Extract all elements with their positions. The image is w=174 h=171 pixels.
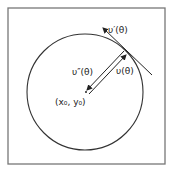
normal-vector-label: υ″(θ) — [72, 67, 93, 77]
tangent-vector-label: υ′(θ) — [108, 25, 128, 35]
position-vector-label: υ(θ) — [116, 66, 134, 76]
circle-diagram — [0, 0, 174, 171]
center-label: (x₀, y₀) — [55, 97, 86, 107]
center-point — [85, 91, 87, 93]
frame-border — [8, 8, 165, 164]
